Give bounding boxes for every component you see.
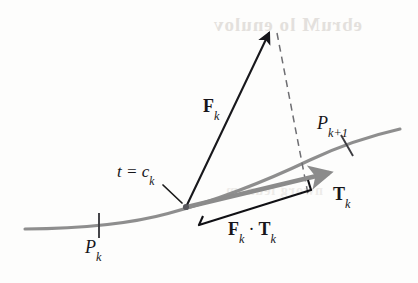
curve-path — [25, 129, 400, 229]
label-tangent-subscript: k — [345, 197, 350, 211]
point-marker-ck — [183, 204, 189, 210]
label-dot-product: Fk·Tk — [228, 220, 276, 238]
label-point-current-base: P — [85, 237, 96, 257]
label-dot-second-base: T — [258, 219, 270, 239]
label-force-vector: Fk — [203, 97, 219, 115]
label-force-base: F — [203, 96, 214, 116]
label-dot-first-subscript: k — [239, 232, 244, 246]
diagram-canvas — [0, 0, 418, 283]
force-vector-arrow — [186, 33, 269, 207]
annotation-leader-line — [163, 185, 182, 203]
label-point-next: Pk+1 — [317, 114, 348, 132]
projection-segment-tick-end — [308, 180, 311, 190]
label-point-current-subscript: k — [96, 250, 101, 264]
label-tangent-vector: Tk — [333, 185, 350, 203]
label-parameter-text: t = c — [117, 162, 149, 181]
label-point-current: Pk — [85, 238, 101, 256]
label-dot-first-base: F — [228, 219, 239, 239]
label-dot-second-subscript: k — [270, 232, 275, 246]
projection-dashed-line — [277, 33, 308, 194]
dot-operator-icon: · — [248, 219, 254, 239]
label-point-next-subscript: k+1 — [328, 126, 348, 140]
label-parameter-value: t = ck — [117, 163, 154, 180]
label-force-subscript: k — [214, 109, 219, 123]
label-parameter-subscript: k — [149, 175, 154, 188]
label-tangent-base: T — [333, 184, 345, 204]
figure-container: ebruM lo enulov nworg leunam — [0, 0, 418, 283]
label-point-next-base: P — [317, 113, 328, 133]
